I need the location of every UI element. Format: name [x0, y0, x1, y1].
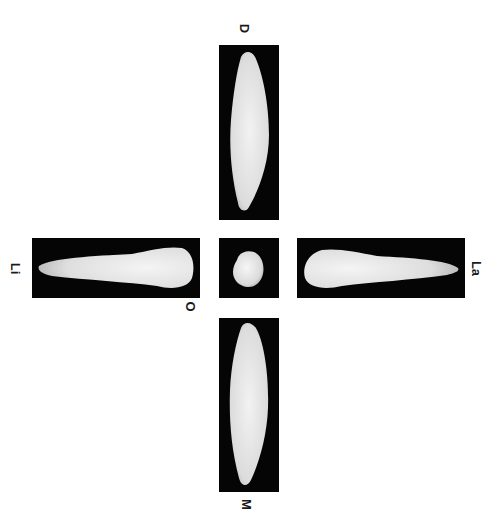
labial-label: La — [470, 261, 483, 276]
tooth-distal-image — [219, 45, 279, 220]
tooth-labial-image — [297, 238, 465, 298]
lingual-label: Li — [9, 263, 22, 275]
labial-view-panel — [297, 238, 465, 298]
mesial-label: M — [240, 499, 253, 510]
lingual-view-panel — [32, 238, 200, 298]
tooth-lingual-image — [32, 238, 200, 298]
occlusal-view-panel — [219, 238, 279, 298]
occlusal-label: O — [184, 301, 197, 311]
distal-label: D — [238, 24, 251, 33]
tooth-mesial-image — [219, 318, 279, 492]
tooth-occlusal-image — [219, 238, 279, 298]
mesial-view-panel — [219, 318, 279, 492]
distal-view-panel — [219, 45, 279, 220]
